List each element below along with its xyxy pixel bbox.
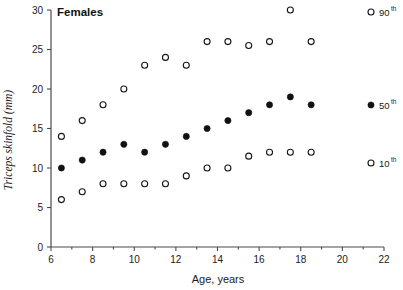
y-tick-label-0: 0: [37, 242, 43, 253]
legend-10th-marker-icon: [368, 160, 374, 166]
legend-50th-label: 50: [379, 100, 390, 111]
data-point-10th-13.5: [204, 165, 210, 171]
x-tick-label-18: 18: [295, 254, 307, 265]
data-point-10th-18.5: [308, 149, 314, 155]
data-point-10th-15.5: [246, 153, 252, 159]
data-point-50th-6.5: [58, 165, 64, 171]
data-point-90th-9.5: [121, 86, 127, 92]
x-tick-label-10: 10: [129, 254, 141, 265]
data-point-50th-12.5: [183, 133, 189, 139]
data-point-90th-13.5: [204, 39, 210, 45]
data-point-50th-9.5: [121, 141, 127, 147]
data-point-10th-12.5: [183, 173, 189, 179]
data-point-50th-13.5: [204, 125, 210, 131]
data-point-50th-17.5: [287, 94, 293, 100]
legend-50th-marker-icon: [368, 102, 374, 108]
data-point-50th-18.5: [308, 102, 314, 108]
data-point-50th-10.5: [142, 149, 148, 155]
x-tick-label-14: 14: [212, 254, 224, 265]
legend-50th-sup: th: [391, 98, 397, 105]
axis-layer: [51, 10, 384, 247]
data-point-90th-14.5: [225, 39, 231, 45]
legend-layer: 90th50th10th: [368, 5, 397, 169]
y-tick-label-25: 25: [32, 44, 44, 55]
data-point-10th-8.5: [100, 181, 106, 187]
x-tick-label-22: 22: [378, 254, 390, 265]
panel-title: Females: [57, 6, 103, 18]
data-point-10th-7.5: [79, 189, 85, 195]
y-axis-title: Triceps skinfold (mm): [2, 90, 15, 190]
data-point-90th-18.5: [308, 39, 314, 45]
data-point-50th-8.5: [100, 149, 106, 155]
x-tick-label-20: 20: [337, 254, 349, 265]
data-point-10th-6.5: [58, 197, 64, 203]
data-point-10th-10.5: [142, 181, 148, 187]
data-point-50th-14.5: [225, 118, 231, 124]
tick-layer: [47, 10, 384, 251]
data-point-50th-16.5: [266, 102, 272, 108]
x-tick-label-8: 8: [90, 254, 96, 265]
data-points-layer: [58, 7, 314, 203]
data-point-90th-8.5: [100, 102, 106, 108]
data-point-50th-7.5: [79, 157, 85, 163]
data-point-50th-11.5: [162, 141, 168, 147]
y-tick-label-20: 20: [32, 84, 44, 95]
data-point-90th-16.5: [267, 39, 273, 45]
data-point-90th-17.5: [287, 7, 293, 13]
tick-label-layer: 0510152025306810121416182022: [32, 5, 390, 266]
x-tick-label-6: 6: [48, 254, 54, 265]
data-point-10th-11.5: [162, 181, 168, 187]
legend-90th-label: 90: [379, 7, 390, 18]
y-tick-label-5: 5: [37, 202, 43, 213]
data-point-10th-14.5: [225, 165, 231, 171]
data-point-90th-11.5: [162, 54, 168, 60]
triceps-skinfold-scatter-chart: 0510152025306810121416182022 90th50th10t…: [0, 0, 403, 290]
x-tick-label-16: 16: [254, 254, 266, 265]
data-point-90th-12.5: [183, 62, 189, 68]
data-point-90th-10.5: [142, 62, 148, 68]
data-point-90th-7.5: [79, 118, 85, 124]
x-axis-title: Age, years: [192, 273, 245, 285]
data-point-50th-15.5: [246, 110, 252, 116]
data-point-10th-9.5: [121, 181, 127, 187]
legend-10th-label: 10: [379, 158, 390, 169]
y-tick-label-30: 30: [32, 5, 44, 16]
y-tick-label-10: 10: [32, 163, 44, 174]
data-point-90th-6.5: [58, 133, 64, 139]
legend-10th-sup: th: [391, 156, 397, 163]
legend-90th-marker-icon: [368, 9, 374, 15]
data-point-10th-16.5: [267, 149, 273, 155]
y-tick-label-15: 15: [32, 123, 44, 134]
x-tick-label-12: 12: [170, 254, 182, 265]
data-point-10th-17.5: [287, 149, 293, 155]
data-point-90th-15.5: [246, 43, 252, 49]
legend-90th-sup: th: [391, 5, 397, 12]
chart-canvas: 0510152025306810121416182022 90th50th10t…: [0, 0, 403, 290]
